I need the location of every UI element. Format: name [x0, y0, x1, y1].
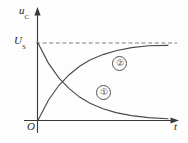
curve-2-tag: ②	[112, 56, 127, 71]
y-axis-label-subscript: C	[25, 13, 30, 21]
curve-1-tag: ①	[96, 85, 111, 100]
y-axis-label: uC	[19, 5, 29, 16]
us-subscript: S	[22, 43, 26, 51]
x-axis-label: t	[174, 121, 177, 132]
us-tick-label: US	[14, 35, 26, 46]
us-symbol: U	[14, 34, 22, 46]
y-axis-arrowhead	[34, 7, 40, 16]
y-axis-label-symbol: u	[19, 4, 25, 16]
chart-figure: uC US O t ① ②	[0, 0, 188, 143]
origin-label: O	[27, 121, 35, 132]
